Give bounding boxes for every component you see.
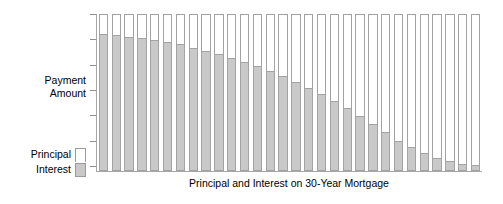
bar [445, 14, 454, 171]
bar [317, 14, 326, 171]
legend-label-interest: Interest [36, 164, 71, 175]
bar [137, 14, 146, 171]
bar [201, 14, 210, 171]
plot-area [96, 14, 482, 172]
bar [394, 14, 403, 171]
legend-item-principal: Principal [31, 147, 86, 162]
bar-segment-interest [344, 108, 351, 170]
bar [253, 14, 262, 171]
legend-label-principal: Principal [31, 149, 71, 160]
bar [189, 14, 198, 171]
bar [163, 14, 172, 171]
legend-item-interest: Interest [36, 162, 86, 177]
bar-segment-interest [267, 71, 274, 170]
y-axis-tick [90, 90, 96, 91]
bar-series-container [97, 14, 482, 171]
bar [214, 14, 223, 171]
bar-segment-interest [395, 141, 402, 170]
bar [240, 14, 249, 171]
bar-segment-interest [113, 35, 120, 170]
bar-segment-interest [433, 158, 440, 170]
bar-segment-interest [190, 48, 197, 170]
y-axis-label: Payment Amount [14, 74, 86, 99]
y-axis-tick [90, 141, 96, 142]
bar-segment-interest [382, 132, 389, 170]
bar-segment-interest [356, 116, 363, 170]
bar-segment-interest [305, 88, 312, 170]
bar [227, 14, 236, 171]
bar [291, 14, 300, 171]
x-axis-line [96, 171, 482, 172]
bar [343, 14, 352, 171]
bar [368, 14, 377, 171]
bar [420, 14, 429, 171]
y-axis-tick [90, 65, 96, 66]
bar [124, 14, 133, 171]
bar [112, 14, 121, 171]
bar-segment-interest [215, 54, 222, 170]
bar [330, 14, 339, 171]
legend-swatch-interest-icon [75, 163, 86, 177]
y-axis-tick [90, 115, 96, 116]
bar-segment-interest [369, 124, 376, 171]
bar [381, 14, 390, 171]
chart-legend: Principal Interest [8, 147, 86, 177]
bar-segment-interest [292, 82, 299, 170]
y-axis-tick [90, 14, 96, 15]
bar-segment-interest [459, 164, 466, 170]
bar [432, 14, 441, 171]
bar [176, 14, 185, 171]
bar-segment-interest [177, 44, 184, 170]
bar [458, 14, 467, 171]
mortgage-amortization-chart: Payment Amount Principal Interest Princi… [0, 0, 503, 204]
bar-segment-interest [100, 34, 107, 170]
x-axis-title: Principal and Interest on 30-Year Mortga… [96, 177, 482, 189]
bar-segment-interest [138, 38, 145, 170]
bar-segment-interest [318, 94, 325, 170]
bar-segment-interest [421, 153, 428, 170]
bar-segment-interest [254, 66, 261, 170]
bar [99, 14, 108, 171]
bar [150, 14, 159, 171]
bar-segment-interest [228, 58, 235, 170]
y-axis-tick [90, 166, 96, 167]
bar [266, 14, 275, 171]
bar-segment-interest [164, 42, 171, 170]
bar-segment-interest [331, 101, 338, 170]
bar [355, 14, 364, 171]
bar [471, 14, 480, 171]
bar-segment-interest [446, 161, 453, 170]
bar-segment-interest [241, 62, 248, 171]
bar [304, 14, 313, 171]
legend-swatch-principal-icon [75, 148, 86, 162]
bar-segment-interest [279, 76, 286, 170]
bar-segment-interest [151, 40, 158, 170]
bar-segment-interest [408, 147, 415, 170]
y-axis-tick [90, 39, 96, 40]
bar-segment-interest [472, 165, 479, 170]
bar [278, 14, 287, 171]
bar [407, 14, 416, 171]
bar-segment-interest [202, 51, 209, 170]
bar-segment-interest [125, 37, 132, 170]
